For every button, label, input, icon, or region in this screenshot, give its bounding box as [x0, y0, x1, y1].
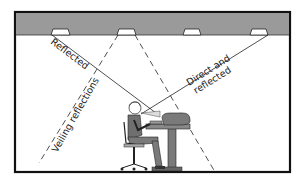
- lighting-diagram: Reflected Direct and reflected Veiling r…: [0, 0, 302, 187]
- ceiling-lamp-3: [183, 29, 201, 35]
- monitor: [162, 113, 190, 125]
- ceiling-lamp-4: [250, 29, 268, 35]
- ceiling-lamp-1: [51, 29, 70, 35]
- keyboard: [150, 121, 162, 124]
- ceiling-lamp-2: [117, 29, 136, 35]
